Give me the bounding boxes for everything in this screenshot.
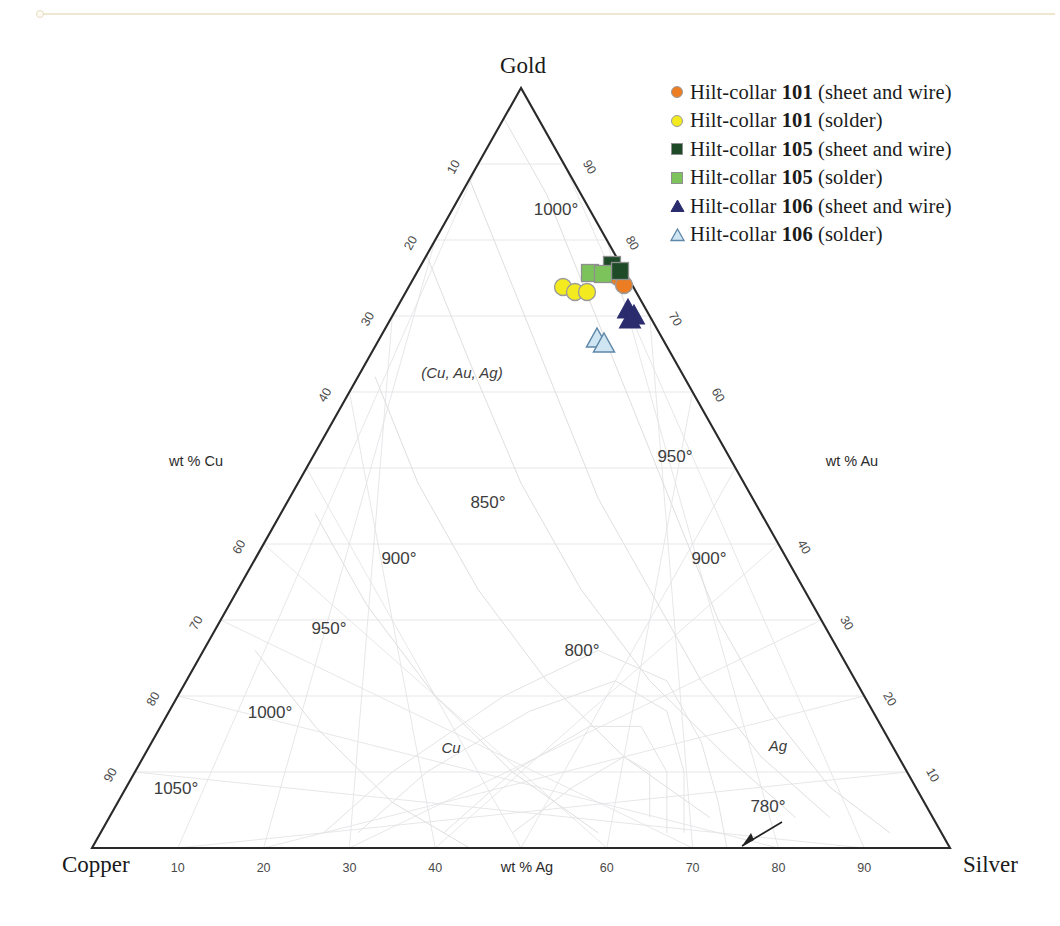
axis-tick-label: 80: [771, 861, 785, 875]
phase-field-label: (Cu, Au, Ag): [421, 364, 502, 381]
axis-tick-label: 80: [144, 689, 163, 708]
axis-tick-label: 80: [623, 234, 642, 253]
corner-label-silver: Silver: [963, 852, 1018, 877]
corner-label-copper: Copper: [62, 852, 130, 877]
axis-tick-label: 20: [880, 690, 899, 709]
legend-item-label: Hilt-collar 106 (sheet and wire): [690, 195, 952, 218]
axis-title-wt-pct-au: wt % Au: [825, 453, 878, 469]
legend-marker-triangle-open-icon: [664, 225, 690, 245]
legend-item-hilt-collar-105-sheet-and-wire[interactable]: Hilt-collar 105 (sheet and wire): [664, 135, 1056, 164]
axis-tick-label: 90: [101, 765, 120, 784]
axis-tick-label: 70: [187, 613, 206, 632]
isotherm-label: 780°: [750, 797, 785, 816]
legend-marker-triangle-icon: [664, 196, 690, 216]
phase-labels-layer: (Cu, Au, Ag)CuAg: [421, 364, 788, 756]
isotherm-label: 900°: [691, 549, 726, 568]
legend-item-label: Hilt-collar 101 (solder): [690, 109, 883, 132]
legend-item-hilt-collar-106-solder[interactable]: Hilt-collar 106 (solder): [664, 221, 1056, 250]
axis-tick-label: 60: [600, 861, 614, 875]
axis-tick-label: 10: [923, 766, 942, 785]
legend-marker-circle-icon: [664, 82, 690, 102]
legend-marker-square-icon: [664, 139, 690, 159]
series-hilt-collar-106-solder: [587, 328, 615, 352]
ternary-diagram-figure: 1020304060708090908070604030201010203040…: [0, 0, 1060, 926]
axis-tick-label: 40: [428, 861, 442, 875]
axis-tick-label: 90: [857, 861, 871, 875]
isotherm-label: 900°: [381, 549, 416, 568]
axis-tick-label: 10: [171, 861, 185, 875]
grid-layer: [135, 164, 907, 848]
legend-item-label: Hilt-collar 105 (solder): [690, 166, 883, 189]
isotherm-label: 1000°: [534, 200, 579, 219]
axis-tick-label: 20: [257, 861, 271, 875]
axis-tick-label: 30: [342, 861, 356, 875]
legend: Hilt-collar 101 (sheet and wire)Hilt-col…: [664, 78, 1056, 249]
axis-tick-label: 60: [709, 386, 728, 405]
axis-tick-label: 30: [358, 309, 377, 328]
annotation-arrow-layer: [742, 822, 782, 846]
axis-tick-label: 90: [580, 158, 599, 177]
legend-item-label: Hilt-collar 101 (sheet and wire): [690, 81, 952, 104]
series-hilt-collar-105-solder: [582, 265, 612, 283]
axis-tick-label: 70: [666, 310, 685, 329]
isotherm-label: 950°: [311, 619, 346, 638]
series-hilt-collar-106-sheet-and-wire: [618, 299, 645, 328]
isotherm-label: 800°: [564, 641, 599, 660]
axis-tick-label: 60: [230, 537, 249, 556]
data-points-layer: [555, 257, 645, 353]
legend-item-label: Hilt-collar 106 (solder): [690, 223, 883, 246]
isotherm-label: 1000°: [248, 703, 293, 722]
legend-marker-square-icon: [664, 168, 690, 188]
legend-item-hilt-collar-105-solder[interactable]: Hilt-collar 105 (solder): [664, 164, 1056, 193]
legend-item-hilt-collar-106-sheet-and-wire[interactable]: Hilt-collar 106 (sheet and wire): [664, 192, 1056, 221]
axis-tick-label: 20: [401, 233, 420, 252]
isotherm-label: 1050°: [154, 779, 199, 798]
legend-item-label: Hilt-collar 105 (sheet and wire): [690, 138, 952, 161]
legend-marker-circle-icon: [664, 111, 690, 131]
tick-labels-layer: 1020304060708090908070604030201010203040…: [101, 157, 942, 875]
corner-label-gold: Gold: [500, 53, 547, 78]
isotherm-label: 950°: [657, 447, 692, 466]
axis-title-wt-pct-cu: wt % Cu: [168, 453, 223, 469]
axis-tick-label: 40: [315, 385, 334, 404]
axis-title-wt-pct-ag: wt % Ag: [500, 859, 553, 875]
axis-tick-label: 70: [686, 861, 700, 875]
legend-item-hilt-collar-101-solder[interactable]: Hilt-collar 101 (solder): [664, 107, 1056, 136]
data-point: [595, 266, 612, 283]
phase-field-label: Ag: [768, 737, 788, 754]
axis-tick-label: 10: [444, 157, 463, 176]
axis-tick-label: 40: [794, 538, 813, 557]
phase-field-label: Cu: [441, 739, 461, 756]
data-point: [612, 263, 629, 280]
axis-tick-label: 30: [837, 614, 856, 633]
legend-item-hilt-collar-101-sheet-and-wire[interactable]: Hilt-collar 101 (sheet and wire): [664, 78, 1056, 107]
isotherm-label: 850°: [470, 493, 505, 512]
data-point: [579, 284, 596, 301]
